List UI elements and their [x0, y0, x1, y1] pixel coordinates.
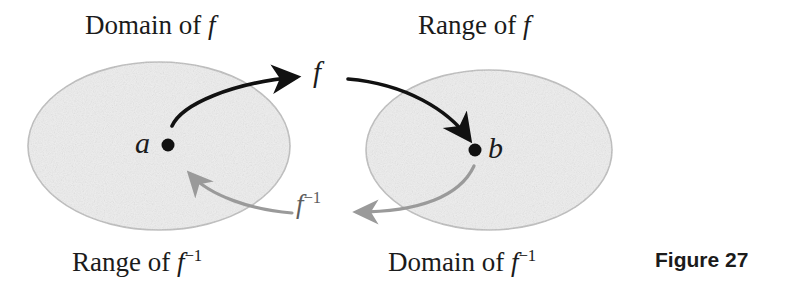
- f-symbol: f: [511, 247, 519, 277]
- point-a-label: a: [135, 128, 150, 158]
- point-a-dot: [162, 139, 175, 152]
- f-symbol: f: [208, 10, 216, 40]
- inverse-exponent: −1: [184, 246, 201, 265]
- f-symbol: f: [296, 189, 304, 219]
- label-domain-of-f-inverse: Domain of f−1: [388, 248, 536, 276]
- range-of-text: Range of: [418, 10, 523, 40]
- f-symbol: f: [523, 10, 531, 40]
- label-domain-of-f: Domain of f: [85, 12, 216, 39]
- forward-map-label-f: f: [313, 58, 321, 87]
- domain-of-text: Domain of: [388, 247, 511, 277]
- inverse-exponent: −1: [304, 188, 321, 207]
- inverse-map-label-f-inverse: f−1: [296, 190, 321, 218]
- range-of-text: Range of: [72, 247, 177, 277]
- domain-of-text: Domain of: [85, 10, 208, 40]
- point-b-label: b: [488, 133, 503, 163]
- figure-27-diagram: Domain of f Range of f Range of f−1 Doma…: [0, 0, 794, 292]
- point-b-dot: [469, 144, 482, 157]
- label-range-of-f-inverse: Range of f−1: [72, 248, 202, 276]
- label-range-of-f: Range of f: [418, 12, 530, 39]
- figure-caption: Figure 27: [655, 249, 748, 270]
- inverse-exponent: −1: [519, 246, 536, 265]
